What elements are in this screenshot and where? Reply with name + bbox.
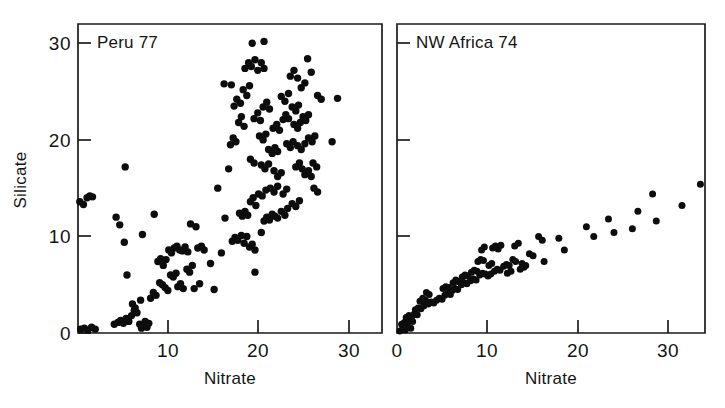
data-point [248,63,255,70]
data-point [243,92,250,99]
data-point [285,90,292,97]
data-point [274,183,281,190]
data-point [305,111,312,118]
data-point [244,211,251,218]
x-tick-label-10-right: 10 [476,340,498,361]
data-point [151,211,158,218]
y-tick-label-30: 30 [49,33,71,54]
data-point [251,56,258,63]
data-point [145,320,152,327]
data-point [200,246,207,253]
data-point [137,296,144,303]
data-point [265,160,272,167]
data-point [634,208,641,215]
y-tick-label-20: 20 [49,130,71,151]
data-point [184,248,191,255]
data-point [123,271,130,278]
x-tick-label-20: 20 [247,340,269,361]
data-point [196,280,203,287]
data-point [497,242,504,249]
data-point [121,163,128,170]
data-point [254,67,261,74]
x-axis-title-right: Nitrate [525,369,577,388]
data-point [249,40,256,47]
data-point [311,132,318,139]
data-point [276,127,283,134]
data-point [318,96,325,103]
data-point [296,197,303,204]
panel-title-nw-africa: NW Africa 74 [416,33,518,52]
y-axis-ticks-right [397,43,410,236]
data-point [172,269,179,276]
data-point [294,74,301,81]
data-point [520,264,527,271]
data-point [295,101,302,108]
x-tick-label-0-right: 0 [391,340,402,361]
data-point [218,249,225,256]
data-point [539,237,546,244]
data-point [180,285,187,292]
data-point [112,213,119,220]
x-axis-title-left: Nitrate [204,369,256,388]
data-point [251,268,258,275]
x-tick-label-30-right: 30 [657,340,679,361]
data-point [649,190,656,197]
data-point [240,123,247,130]
data-point [610,229,617,236]
data-point [192,223,199,230]
data-point [285,115,292,122]
data-point [426,291,433,298]
data-point [139,231,146,238]
data-point [152,292,159,299]
data-point [274,148,281,155]
data-point [260,65,267,72]
data-point [281,211,288,218]
data-point [238,113,245,120]
data-point [262,130,269,137]
data-point [252,202,259,209]
data-point [232,138,239,145]
y-axis-title-left: Silicate [11,151,30,208]
x-tick-label-20-right: 20 [567,340,589,361]
data-point [629,225,636,232]
data-point [230,102,237,109]
panel-nw-africa-74: 0 10 20 30 NW Africa 74 Nitrate [391,24,705,388]
data-point [254,109,261,116]
data-point [274,214,281,221]
figure-container: 30 20 10 0 10 20 30 Peru 77 Nitrate Sili… [0,0,725,408]
data-point [262,186,269,193]
y-axis-ticks-left [78,43,91,333]
data-point [258,229,265,236]
data-point [131,304,138,311]
data-point [243,233,250,240]
x-axis-ticks-left [168,320,349,333]
data-point [251,246,258,253]
data-point [583,223,590,230]
data-point [301,79,308,86]
data-point [228,81,235,88]
scatter-figure-svg: 30 20 10 0 10 20 30 Peru 77 Nitrate Sili… [0,0,725,408]
data-point [679,202,686,209]
data-point [225,165,232,172]
data-point [260,38,267,45]
data-point [590,233,597,240]
data-point [541,258,548,265]
data-point [220,80,227,87]
data-point [116,221,123,228]
data-point [162,256,169,263]
data-point [488,260,495,267]
data-point [237,99,244,106]
x-tick-label-10: 10 [157,340,179,361]
y-tick-label-0: 0 [60,323,71,344]
data-point [281,98,288,105]
data-points-nw-africa [396,181,704,335]
panel-peru-77: 30 20 10 0 10 20 30 Peru 77 Nitrate Sili… [11,24,382,388]
data-point [189,262,196,269]
panel-title-peru: Peru 77 [97,33,158,52]
data-point [328,138,335,145]
data-points-peru [76,38,341,334]
data-point [334,95,341,102]
data-point [314,188,321,195]
data-point [515,240,522,247]
data-point [210,286,217,293]
